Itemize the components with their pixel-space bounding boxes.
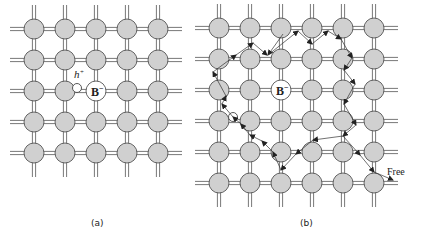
silicon-atom xyxy=(364,80,384,100)
silicon-atom xyxy=(240,111,260,131)
silicon-atom xyxy=(86,19,106,39)
caption-b: (b) xyxy=(300,218,313,228)
silicon-atom xyxy=(364,142,384,162)
silicon-atom xyxy=(271,18,291,38)
silicon-atom xyxy=(86,143,106,163)
hole-label: h+ xyxy=(74,68,85,80)
silicon-atom xyxy=(148,112,168,132)
silicon-atom xyxy=(148,81,168,101)
silicon-atom xyxy=(302,111,322,131)
hole-icon xyxy=(73,84,82,93)
silicon-atom xyxy=(86,112,106,132)
silicon-atom xyxy=(333,18,353,38)
panel-b: B−Free(b) xyxy=(195,4,405,228)
silicon-atom xyxy=(148,19,168,39)
silicon-atom xyxy=(55,50,75,70)
silicon-atom xyxy=(148,50,168,70)
atoms: B− xyxy=(24,19,168,163)
silicon-atom xyxy=(364,173,384,193)
silicon-atom xyxy=(333,173,353,193)
silicon-atom xyxy=(117,50,137,70)
silicon-atom xyxy=(302,49,322,69)
silicon-atom xyxy=(240,18,260,38)
silicon-atom xyxy=(24,19,44,39)
silicon-atom xyxy=(240,142,260,162)
silicon-atom xyxy=(209,18,229,38)
silicon-atom xyxy=(55,19,75,39)
silicon-atom xyxy=(117,143,137,163)
silicon-atom xyxy=(117,112,137,132)
silicon-atom xyxy=(209,111,229,131)
silicon-atom xyxy=(333,80,353,100)
silicon-atom xyxy=(240,80,260,100)
silicon-atom xyxy=(55,143,75,163)
atoms: B− xyxy=(209,18,384,193)
silicon-atom xyxy=(302,18,322,38)
silicon-atom xyxy=(333,142,353,162)
silicon-atom xyxy=(302,173,322,193)
silicon-atom xyxy=(240,173,260,193)
silicon-atom xyxy=(24,50,44,70)
silicon-atom xyxy=(364,111,384,131)
silicon-atom xyxy=(271,173,291,193)
silicon-atom xyxy=(86,50,106,70)
free-label: Free xyxy=(387,166,405,177)
silicon-atom xyxy=(209,142,229,162)
silicon-atom xyxy=(24,112,44,132)
silicon-atom xyxy=(333,49,353,69)
silicon-atom xyxy=(24,81,44,101)
silicon-atom xyxy=(55,112,75,132)
silicon-atom xyxy=(24,143,44,163)
caption-a: (a) xyxy=(91,218,104,228)
silicon-atom xyxy=(117,19,137,39)
silicon-atom xyxy=(55,81,75,101)
lattice-figure: B−h+(a)B−Free(b) xyxy=(0,0,425,240)
silicon-atom xyxy=(364,18,384,38)
silicon-atom xyxy=(209,49,229,69)
panel-a: B−h+(a) xyxy=(10,5,182,228)
silicon-atom xyxy=(302,142,322,162)
silicon-atom xyxy=(271,142,291,162)
silicon-atom xyxy=(148,143,168,163)
silicon-atom xyxy=(364,49,384,69)
silicon-atom xyxy=(117,81,137,101)
silicon-atom xyxy=(271,49,291,69)
silicon-atom xyxy=(302,80,322,100)
silicon-atom xyxy=(209,173,229,193)
silicon-atom xyxy=(240,49,260,69)
silicon-atom xyxy=(271,111,291,131)
